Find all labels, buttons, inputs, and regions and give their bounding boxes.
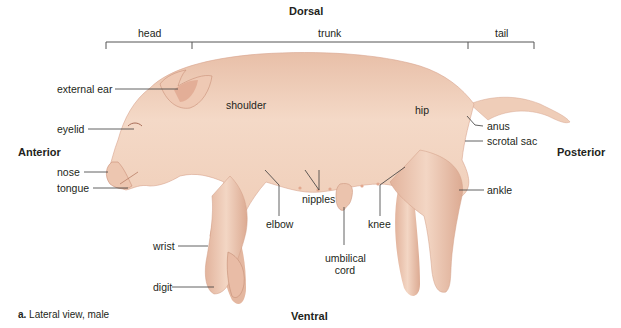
label-eyelid: eyelid <box>57 123 84 135</box>
label-tongue: tongue <box>57 182 89 194</box>
label-nose: nose <box>57 166 80 178</box>
tail <box>470 97 570 123</box>
far-legs <box>224 190 420 304</box>
dorsal-label: Dorsal <box>289 5 323 17</box>
umbilical-cord-shape <box>336 184 353 211</box>
label-umbilical-cord-line1: umbilical <box>325 252 365 264</box>
label-nipples: nipples <box>302 193 335 205</box>
region-head-label: head <box>138 27 161 39</box>
label-elbow: elbow <box>266 218 293 230</box>
label-shoulder: shoulder <box>226 99 266 111</box>
label-anus: anus <box>487 120 510 132</box>
region-tail-label: tail <box>495 27 508 39</box>
figure-caption: a. Lateral view, male <box>18 309 109 320</box>
label-umbilical-cord-line2: cord <box>325 264 365 276</box>
label-hip: hip <box>415 104 429 116</box>
label-external-ear: external ear <box>57 83 112 95</box>
region-trunk-label: trunk <box>318 27 341 39</box>
pig-illustration <box>0 0 621 328</box>
anterior-label: Anterior <box>18 146 61 158</box>
label-knee: knee <box>368 218 391 230</box>
label-digit: digit <box>153 281 172 293</box>
label-scrotal-sac: scrotal sac <box>487 135 537 147</box>
label-ankle: ankle <box>487 184 512 196</box>
caption-text: Lateral view, male <box>26 309 109 320</box>
ventral-label: Ventral <box>291 310 328 322</box>
posterior-label: Posterior <box>557 146 605 158</box>
label-wrist: wrist <box>153 240 175 252</box>
region-brackets <box>106 42 534 49</box>
